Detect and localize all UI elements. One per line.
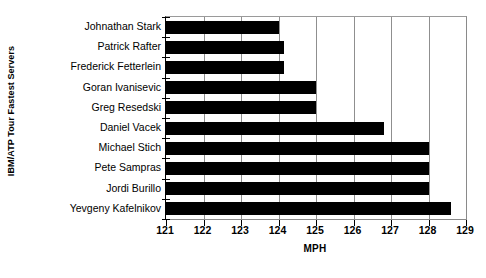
y-axis-tick <box>162 37 170 38</box>
x-tick-label: 125 <box>295 224 335 236</box>
x-tick-label: 126 <box>333 224 373 236</box>
category-label: Goran Ivanisevic <box>83 77 161 97</box>
x-tick-label: 123 <box>220 224 260 236</box>
bar <box>166 202 451 215</box>
category-label: Patrick Rafter <box>97 36 161 56</box>
bar <box>166 122 384 135</box>
bar <box>166 101 316 114</box>
category-label: Pete Sampras <box>94 157 161 177</box>
x-tick-label-list: 121122123124125126127128129 <box>165 224 465 238</box>
bar <box>166 142 429 155</box>
bar <box>166 162 429 175</box>
y-axis-tick <box>162 158 170 159</box>
x-axis-title: MPH <box>165 243 465 254</box>
plot-area <box>165 16 467 220</box>
bar <box>166 61 284 74</box>
bar <box>166 41 284 54</box>
x-tick-label: 124 <box>258 224 298 236</box>
x-tick-label: 122 <box>183 224 223 236</box>
category-label: Jordi Burillo <box>106 178 161 198</box>
x-tick-label: 128 <box>408 224 448 236</box>
category-label: Yevgeny Kafelnikov <box>70 198 161 218</box>
category-label: Johnathan Stark <box>85 16 161 36</box>
x-tick-label: 121 <box>145 224 185 236</box>
y-axis-tick <box>162 199 170 200</box>
y-axis-tick <box>162 98 170 99</box>
y-axis-tick <box>162 118 170 119</box>
y-axis-tick <box>162 78 170 79</box>
category-label: Greg Resedski <box>92 97 161 117</box>
gridline <box>429 17 430 219</box>
bar <box>166 81 316 94</box>
y-axis-tick <box>162 219 170 220</box>
category-label: Michael Stich <box>99 137 161 157</box>
category-label-list: Johnathan StarkPatrick RafterFrederick F… <box>20 16 165 218</box>
y-axis-title: IBM/ATP Tour Fastest Servers <box>0 0 22 222</box>
bar <box>166 182 429 195</box>
bar <box>166 21 279 34</box>
y-axis-tick <box>162 179 170 180</box>
y-axis-tick <box>162 57 170 58</box>
y-axis-tick <box>162 138 170 139</box>
category-label: Daniel Vacek <box>100 117 161 137</box>
bar-chart: IBM/ATP Tour Fastest Servers Johnathan S… <box>0 0 486 278</box>
y-axis-tick <box>162 17 170 18</box>
x-tick-label: 127 <box>370 224 410 236</box>
category-label: Frederick Fetterlein <box>71 56 161 76</box>
x-tick-label: 129 <box>445 224 485 236</box>
y-axis-title-text: IBM/ATP Tour Fastest Servers <box>6 46 16 176</box>
